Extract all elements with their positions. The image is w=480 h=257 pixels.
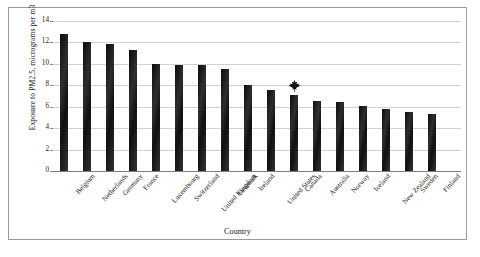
x-tick-label: Finland <box>442 173 462 194</box>
y-tick-label: 4 <box>45 125 49 132</box>
x-tick-label: Australia <box>329 173 352 197</box>
y-tick-label: 2 <box>45 146 49 153</box>
x-tick-label: Iceland <box>373 173 392 193</box>
gridline <box>53 85 461 86</box>
bar <box>382 109 390 171</box>
bar <box>290 95 298 171</box>
x-tick-label: France <box>142 173 160 192</box>
y-tick-label: 14 <box>42 17 49 24</box>
gridline <box>53 21 461 22</box>
bar <box>336 102 344 171</box>
y-tick-mark <box>50 107 53 108</box>
bar <box>244 85 252 171</box>
bar <box>198 65 206 171</box>
y-tick-mark <box>50 150 53 151</box>
plot-inner: 02468101214BelgiumNetherlandsGermanyFran… <box>53 21 453 171</box>
bar <box>359 106 367 171</box>
x-tick-label: Belgium <box>75 173 97 196</box>
gridline <box>53 107 461 108</box>
y-tick-mark <box>50 85 53 86</box>
bar <box>313 101 321 171</box>
y-tick-mark <box>50 171 53 172</box>
maple-leaf-icon <box>288 79 301 93</box>
gridline <box>53 64 461 65</box>
y-tick-label: 8 <box>45 82 49 89</box>
gridline <box>53 128 461 129</box>
chart-frame: Exposure to PM2.5, micrograms per m3 024… <box>8 7 467 240</box>
bar <box>175 65 183 171</box>
y-tick-mark <box>50 21 53 22</box>
bar <box>83 42 91 171</box>
y-tick-label: 0 <box>45 167 49 174</box>
x-axis-line <box>53 171 461 172</box>
bar <box>267 90 275 171</box>
x-axis-title: Country <box>9 227 466 236</box>
y-tick-mark <box>50 42 53 43</box>
gridline <box>53 42 461 43</box>
bar <box>129 50 137 171</box>
gridline <box>53 150 461 151</box>
bar <box>152 64 160 171</box>
x-tick-label: Norway <box>351 173 372 195</box>
y-tick-mark <box>50 64 53 65</box>
y-tick-label: 10 <box>42 60 49 67</box>
y-tick-mark <box>50 128 53 129</box>
y-axis-title: Exposure to PM2.5, micrograms per m3 <box>28 0 37 143</box>
y-tick-label: 6 <box>45 103 49 110</box>
bar <box>428 114 436 171</box>
x-tick-label: Ireland <box>258 173 277 193</box>
bar <box>405 112 413 171</box>
bar <box>106 44 114 172</box>
bar <box>221 69 229 171</box>
bar <box>60 34 68 171</box>
plot-area: 02468101214BelgiumNetherlandsGermanyFran… <box>53 21 453 171</box>
y-tick-label: 12 <box>42 39 49 46</box>
